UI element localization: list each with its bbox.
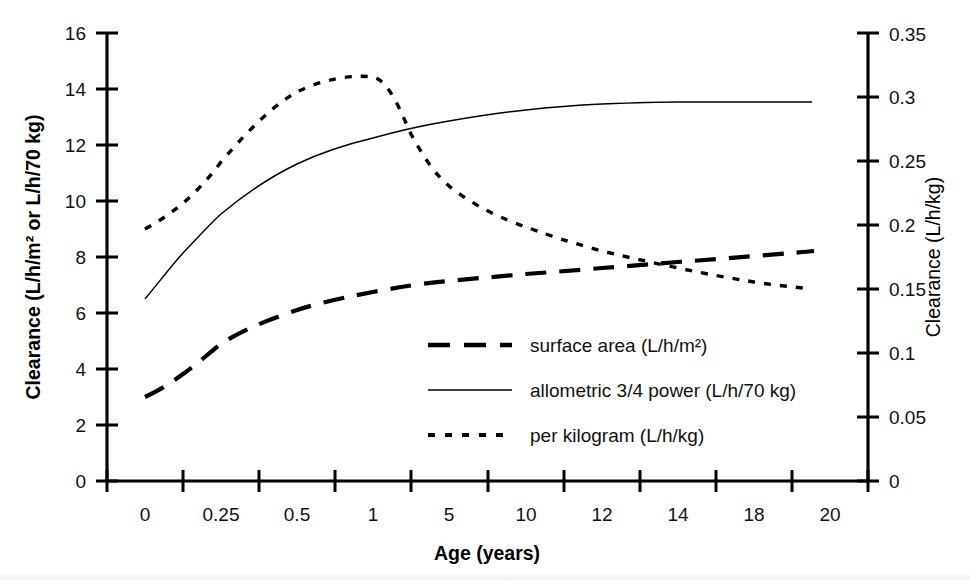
right-ticklabel-0: 0: [889, 471, 900, 492]
y-axis-title: Clearance (L/h/m² or L/h/70 kg): [22, 115, 44, 400]
legend-item-per-kilogram[interactable]: per kilogram (L/h/kg): [428, 425, 704, 446]
series-surface-area: [145, 251, 814, 397]
x-ticklabel-18: 18: [743, 504, 764, 525]
chart-svg: 0 2 4 6 8 10 12 14 16 0 0.05 0.1 0.15 0.: [0, 0, 970, 582]
left-ticklabel-10: 10: [65, 191, 86, 212]
right-ticklabel-0.35: 0.35: [889, 24, 926, 45]
left-ticklabel-14: 14: [65, 79, 87, 100]
y2-axis-title: Clearance (L/h/kg): [922, 177, 944, 337]
right-axis-tick-labels: 0 0.05 0.1 0.15 0.2 0.25 0.3 0.35: [889, 24, 926, 492]
right-ticklabel-0.2: 0.2: [889, 215, 915, 236]
x-ticklabel-12: 12: [591, 504, 612, 525]
x-ticklabel-1: 1: [368, 504, 379, 525]
x-ticklabel-0.5: 0.5: [284, 504, 310, 525]
legend-item-surface-area[interactable]: surface area (L/h/m²): [428, 335, 707, 356]
x-ticklabel-14: 14: [667, 504, 689, 525]
left-ticklabel-8: 8: [75, 247, 86, 268]
left-ticklabel-16: 16: [65, 23, 86, 44]
legend-label-allometric: allometric 3/4 power (L/h/70 kg): [530, 380, 796, 401]
legend-label-surface-area: surface area (L/h/m²): [530, 335, 707, 356]
right-ticklabel-0.05: 0.05: [889, 407, 926, 428]
right-ticklabel-0.15: 0.15: [889, 279, 926, 300]
left-ticklabel-12: 12: [65, 135, 86, 156]
chart-legend: surface area (L/h/m²) allometric 3/4 pow…: [428, 335, 796, 446]
right-ticklabel-0.3: 0.3: [889, 87, 915, 108]
left-ticklabel-4: 4: [75, 359, 86, 380]
legend-label-per-kilogram: per kilogram (L/h/kg): [530, 425, 704, 446]
clearance-vs-age-chart: 0 2 4 6 8 10 12 14 16 0 0.05 0.1 0.15 0.: [0, 0, 970, 582]
left-axis-tick-labels: 0 2 4 6 8 10 12 14 16: [65, 23, 87, 492]
series-allometric-34-power: [145, 102, 812, 299]
left-ticklabel-2: 2: [75, 415, 86, 436]
left-ticklabel-6: 6: [75, 303, 86, 324]
x-ticklabel-20: 20: [819, 504, 840, 525]
x-ticklabel-0.25: 0.25: [203, 504, 240, 525]
right-ticklabel-0.1: 0.1: [889, 343, 915, 364]
x-axis-tick-labels: 0 0.25 0.5 1 5 10 12 14 18 20: [140, 504, 841, 525]
x-ticklabel-10: 10: [515, 504, 536, 525]
series-per-kilogram: [145, 76, 811, 289]
legend-item-allometric[interactable]: allometric 3/4 power (L/h/70 kg): [428, 380, 796, 401]
x-ticklabel-0: 0: [140, 504, 151, 525]
right-ticklabel-0.25: 0.25: [889, 151, 926, 172]
left-ticklabel-0: 0: [75, 471, 86, 492]
x-ticklabel-5: 5: [444, 504, 455, 525]
x-axis-title: Age (years): [434, 542, 540, 564]
scan-artifact: [0, 573, 970, 582]
